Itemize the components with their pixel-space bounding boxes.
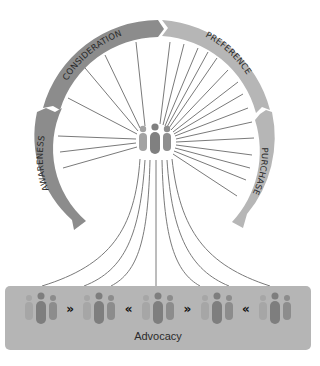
stage-label-preference: PREFERENCE: [204, 29, 254, 76]
stage-consideration-segment: [43, 20, 164, 110]
people-group-icon: [23, 292, 59, 326]
people-group-icon: [81, 292, 117, 326]
people-group-icon: [257, 292, 293, 326]
people-group-icon: [199, 292, 235, 326]
chevron-right-icon: »: [66, 302, 74, 316]
stage-label-purchase: PURCHASE: [251, 148, 270, 197]
advocacy-people-row: » « » «: [5, 292, 311, 326]
chevron-left-icon: «: [125, 302, 133, 316]
people-group-icon: [139, 123, 171, 154]
advocacy-box: » « » « Advocacy: [5, 286, 311, 350]
advocacy-label: Advocacy: [5, 330, 311, 342]
people-group-icon: [140, 292, 176, 326]
chevron-right-icon: »: [183, 302, 191, 316]
chevron-left-icon: «: [242, 302, 250, 316]
